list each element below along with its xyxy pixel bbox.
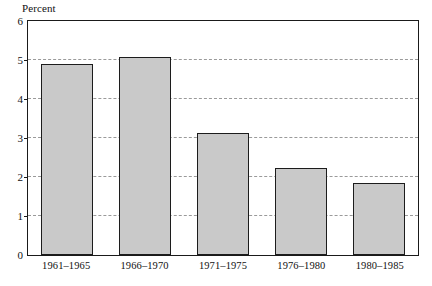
x-tick-label: 1966–1970: [121, 260, 169, 271]
y-axis-title: Percent: [22, 2, 56, 14]
bar: [197, 133, 248, 255]
y-tick-label: 2: [18, 172, 24, 183]
x-tick-label: 1976–1980: [277, 260, 325, 271]
x-axis-labels: 1961–19651966–19701971–19751976–19801980…: [27, 258, 419, 282]
x-tick-label: 1961–1965: [42, 260, 90, 271]
plot-area: 0123456: [28, 21, 418, 255]
bar: [119, 57, 170, 255]
bar: [353, 183, 404, 255]
bar-chart: Percent 0123456 1961–19651966–19701971–1…: [0, 0, 432, 286]
plot-frame: 0123456: [27, 20, 419, 256]
y-tick-label: 0: [18, 250, 24, 261]
y-tick-label: 6: [18, 16, 24, 27]
y-tick-label: 5: [18, 55, 24, 66]
bar: [41, 64, 92, 255]
x-tick-label: 1971–1975: [199, 260, 247, 271]
x-tick-label: 1980–1985: [356, 260, 404, 271]
y-tick-label: 1: [18, 211, 24, 222]
y-tick-label: 3: [18, 133, 24, 144]
bar: [275, 168, 326, 255]
y-tick-label: 4: [18, 94, 24, 105]
bars-group: [28, 21, 418, 255]
